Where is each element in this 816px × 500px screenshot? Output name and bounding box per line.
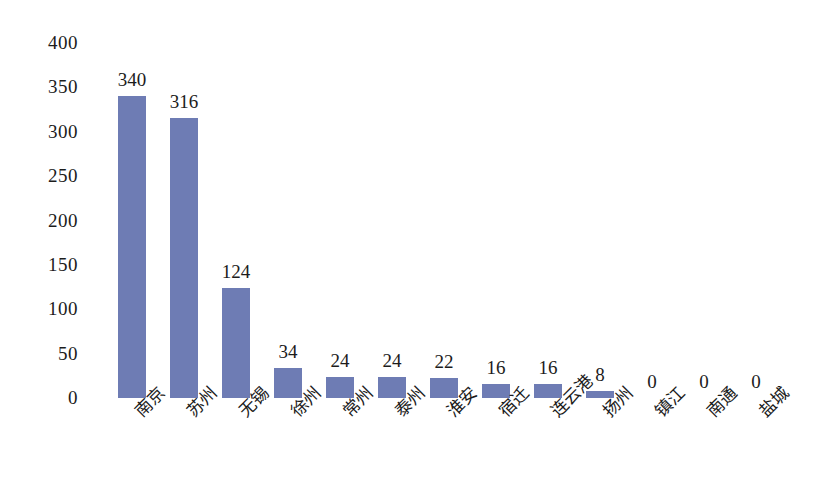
bar-group: 316苏州 — [158, 0, 210, 500]
bar-value-label: 34 — [262, 342, 314, 361]
bar-value-label: 316 — [158, 92, 210, 111]
bar-value-label: 22 — [418, 352, 470, 371]
y-axis-tick-label: 50 — [8, 344, 78, 363]
y-axis-tick-label: 0 — [8, 388, 78, 407]
bar-chart: 050100150200250300350400 340南京316苏州124无锡… — [0, 0, 816, 500]
bar-value-label: 16 — [522, 358, 574, 377]
bar-group: 34徐州 — [262, 0, 314, 500]
bar — [170, 118, 198, 398]
bar-group: 16宿迁 — [470, 0, 522, 500]
bar — [222, 288, 250, 398]
bar-group: 24泰州 — [366, 0, 418, 500]
bar-group: 0镇江 — [626, 0, 678, 500]
bar-value-label: 24 — [314, 351, 366, 370]
y-axis-tick-label: 150 — [8, 255, 78, 274]
bar-group: 16连云港 — [522, 0, 574, 500]
y-axis-tick-label: 350 — [8, 77, 78, 96]
bar — [118, 96, 146, 398]
bar-value-label: 16 — [470, 358, 522, 377]
y-axis: 050100150200250300350400 — [0, 0, 86, 500]
y-axis-tick-label: 400 — [8, 33, 78, 52]
bar — [274, 368, 302, 398]
bar-group: 340南京 — [106, 0, 158, 500]
bar-group: 24常州 — [314, 0, 366, 500]
y-axis-tick-label: 100 — [8, 299, 78, 318]
bar-group: 8扬州 — [574, 0, 626, 500]
bar-group: 22淮安 — [418, 0, 470, 500]
y-axis-tick-label: 300 — [8, 122, 78, 141]
bar-value-label: 24 — [366, 351, 418, 370]
bar-group: 0南通 — [678, 0, 730, 500]
plot-area: 340南京316苏州124无锡34徐州24常州24泰州22淮安16宿迁16连云港… — [86, 0, 816, 500]
y-axis-tick-label: 200 — [8, 211, 78, 230]
bar-value-label: 124 — [210, 262, 262, 281]
bar-group: 124无锡 — [210, 0, 262, 500]
bar-group: 0盐城 — [730, 0, 782, 500]
y-axis-tick-label: 250 — [8, 166, 78, 185]
bar-value-label: 8 — [574, 365, 626, 384]
bar-value-label: 340 — [106, 70, 158, 89]
